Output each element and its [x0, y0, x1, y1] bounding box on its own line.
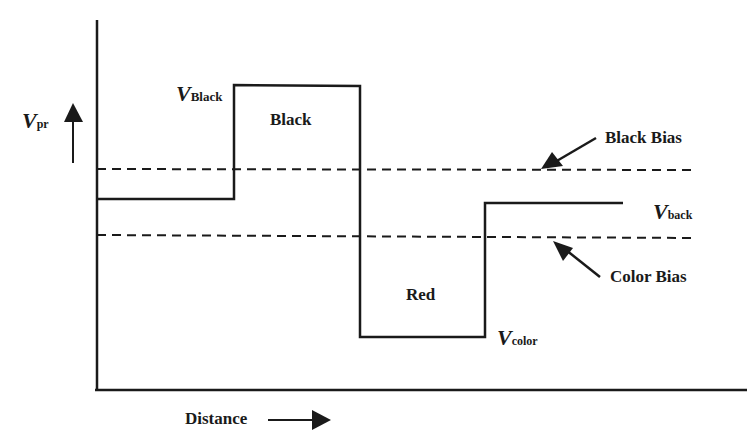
potential-waveform	[97, 85, 623, 337]
y-axis-label: Vpr	[22, 108, 49, 134]
black-region-label: Black	[270, 110, 312, 130]
v-color-label: Vcolor	[497, 325, 538, 351]
v-color-symbol: V	[497, 325, 512, 350]
right-arrow-icon	[312, 410, 331, 430]
black-bias-pointer-shaft	[555, 138, 596, 162]
color-bias-pointer-shaft	[566, 250, 600, 277]
v-back-label: Vback	[653, 199, 692, 225]
y-axis-label-subscript: pr	[37, 117, 49, 131]
color-bias-arrow-icon	[553, 241, 573, 261]
v-color-subscript: color	[512, 334, 538, 348]
black-bias-line	[97, 169, 695, 170]
v-back-symbol: V	[653, 199, 668, 224]
v-black-subscript: Black	[191, 89, 223, 104]
v-back-subscript: back	[668, 208, 693, 222]
y-axis-label-symbol: V	[22, 108, 37, 133]
v-black-symbol: V	[176, 81, 191, 106]
color-bias-label: Color Bias	[610, 267, 687, 287]
v-black-label: VBlack	[176, 81, 222, 107]
red-region-label: Red	[406, 285, 435, 305]
up-arrow-icon	[64, 103, 83, 122]
x-axis-label: Distance	[185, 409, 247, 429]
black-bias-label: Black Bias	[605, 128, 682, 148]
color-bias-line	[97, 235, 695, 238]
potential-profile-diagram	[0, 0, 747, 444]
